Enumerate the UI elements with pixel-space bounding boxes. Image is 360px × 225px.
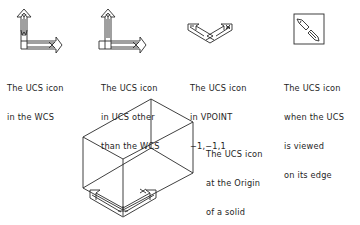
ucs-icon-isometric <box>188 24 232 43</box>
broken-pencil-icon <box>294 14 324 44</box>
caption-line: in the WCS <box>7 113 64 123</box>
caption-line: on its edge <box>284 171 344 181</box>
caption-line: is viewed <box>284 142 344 152</box>
caption-line: The UCS icon <box>190 84 247 94</box>
caption-line: in UCS other <box>101 113 160 123</box>
caption-line: The UCS icon <box>206 150 282 160</box>
caption-line: The UCS icon <box>101 84 160 94</box>
caption-line: in VPOINT <box>190 113 247 123</box>
caption-edge: The UCS icon when the UCS is viewed on i… <box>284 65 344 190</box>
caption-origin-solid: The UCS icon at the Origin of a solid Th… <box>206 131 282 225</box>
caption-line: The UCS icon <box>7 84 64 94</box>
ucs-icon <box>99 9 146 53</box>
ucs-icon-wcs <box>17 9 62 53</box>
caption-line: The UCS icon <box>284 84 344 94</box>
caption-wcs: The UCS icon in the WCS <box>7 65 64 132</box>
caption-line: than the WCS <box>101 142 160 152</box>
caption-line: when the UCS <box>284 113 344 123</box>
caption-line: of a solid <box>206 208 282 218</box>
caption-ucs-other: The UCS icon in UCS other than the WCS <box>101 65 160 161</box>
caption-line: at the Origin <box>206 179 282 189</box>
